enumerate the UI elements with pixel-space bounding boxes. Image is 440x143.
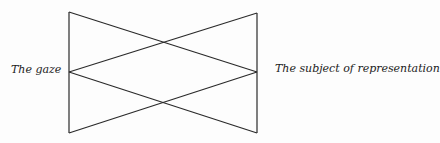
- gaze-label: The gaze: [11, 63, 61, 76]
- subject-of-representation-label: The subject of representation: [275, 62, 440, 75]
